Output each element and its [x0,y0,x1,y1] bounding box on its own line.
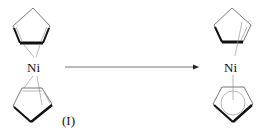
reaction-diagram: Ni (I) Ni [0,0,262,133]
product-bottom-cp-ring [213,75,253,122]
reactant-bottom-cp-ring [13,88,52,122]
reactant-bonds [24,45,42,105]
reactant-top-cp-ring [13,8,50,43]
product-top-cp-ring [214,8,251,56]
reactant-ni-label: Ni [27,60,40,75]
compound-label: (I) [62,113,75,128]
reaction-arrow [65,65,199,70]
product-ni-label: Ni [224,60,237,75]
